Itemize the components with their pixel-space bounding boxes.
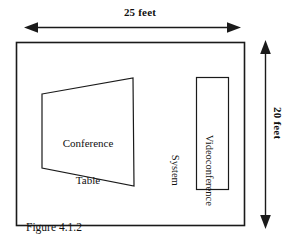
height-arrowhead-bottom-icon xyxy=(260,215,271,229)
conference-table-label-line2: Table xyxy=(44,174,132,186)
figure-caption: Figure 4.1.2 A Typical Corporate Confere… xyxy=(26,192,206,236)
figure-caption-number: Figure 4.1.2 xyxy=(26,220,206,234)
width-dimension-arrow xyxy=(24,22,241,33)
height-dimension-arrow xyxy=(260,40,271,229)
height-dimension-label: 20 feet xyxy=(272,93,284,153)
width-arrowhead-left-icon xyxy=(24,22,38,33)
width-arrowhead-right-icon xyxy=(227,22,241,33)
figure-conference-room-floorplan: 25 feet 20 feet Conference Table Videoco… xyxy=(0,0,291,236)
width-dimension-label: 25 feet xyxy=(104,6,176,18)
height-arrowhead-top-icon xyxy=(260,40,271,54)
conference-table-label-line1: Conference xyxy=(44,137,132,149)
